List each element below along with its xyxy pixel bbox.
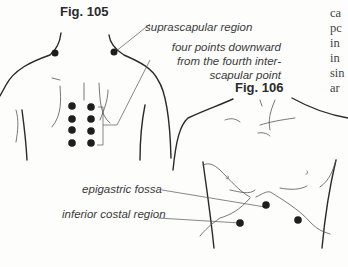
chest-torso-left [203, 162, 214, 248]
point-back-l1 [68, 102, 76, 110]
chest-neck-right [292, 98, 348, 118]
chest-neck-left [173, 99, 233, 170]
side-text-line: sin [330, 66, 345, 81]
side-text-line: pc [330, 21, 345, 36]
acupoint-figure-page: Fig. 105 Fig. 106 suprascapular region f… [0, 0, 348, 267]
back-arm-right [140, 105, 145, 160]
label-suprascapular-region: suprascapular region [145, 20, 252, 34]
label-inferior-costal-region: inferior costal region [62, 207, 166, 221]
back-neck-left [0, 33, 61, 96]
leader-four-points [97, 60, 150, 145]
point-inferior-costal-right [294, 216, 302, 224]
point-back-r3 [87, 127, 95, 135]
side-text-line: in [330, 51, 345, 66]
label-four-points-line1: four points downward [172, 40, 281, 54]
point-back-l3 [68, 126, 76, 134]
figure-106-title: Fig. 106 [235, 80, 283, 95]
point-back-l4 [68, 139, 76, 147]
label-four-points-line2: from the fourth inter- [177, 54, 281, 68]
point-back-r1 [87, 103, 95, 111]
label-four-points-line3: scapular point [209, 68, 281, 82]
figure-105-title: Fig. 105 [60, 4, 108, 19]
point-epigastric [262, 201, 270, 209]
cropped-body-text: ca pc in in sin ar [330, 6, 345, 96]
side-text-line: in [330, 36, 345, 51]
point-suprascapular-left [52, 50, 59, 57]
side-text-line: ca [330, 6, 345, 21]
point-inferior-costal-left [236, 219, 244, 227]
label-epigastric-fossa: epigastric fossa [82, 182, 162, 196]
point-back-r2 [87, 115, 95, 123]
point-back-r4 [87, 139, 95, 147]
point-back-l2 [68, 115, 76, 123]
back-arm-left [22, 110, 27, 160]
leader-inferior-costal [158, 218, 240, 223]
chest-torso-right [322, 160, 336, 248]
side-text-line: ar [330, 81, 345, 96]
point-suprascapular-right [111, 49, 118, 56]
